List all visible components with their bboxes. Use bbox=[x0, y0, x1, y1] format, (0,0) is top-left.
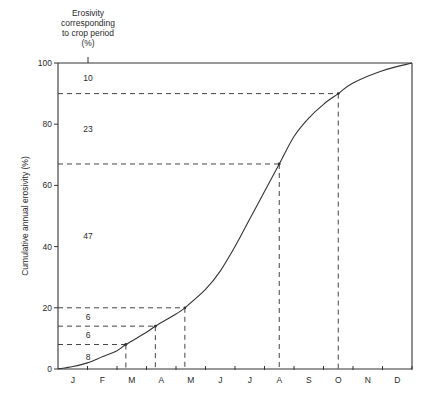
crop-period-value: 47 bbox=[83, 231, 93, 241]
crop-period-value: 6 bbox=[86, 330, 91, 340]
header-line: (%) bbox=[81, 38, 94, 48]
crop-period-header: Erosivitycorrespondingto crop period(%) bbox=[61, 8, 115, 63]
crop-period-value: 23 bbox=[83, 124, 93, 134]
erosivity-chart: Erosivitycorrespondingto crop period(%) … bbox=[0, 0, 433, 403]
x-tick-label: N bbox=[365, 375, 371, 385]
x-tick-label: D bbox=[394, 375, 400, 385]
x-tick-label: A bbox=[158, 375, 164, 385]
y-axis-ticks: 020406080100 bbox=[38, 58, 58, 374]
x-tick-label: J bbox=[71, 375, 75, 385]
y-tick-label: 60 bbox=[43, 180, 53, 190]
reference-point bbox=[337, 92, 340, 95]
x-tick-label: A bbox=[276, 375, 282, 385]
y-axis-label: Cumulative annual erosivity (%) bbox=[20, 156, 30, 276]
y-tick-label: 100 bbox=[38, 58, 52, 68]
header-line: corresponding bbox=[61, 18, 115, 28]
reference-point bbox=[183, 306, 186, 309]
reference-point bbox=[278, 163, 281, 166]
crop-period-values: 102347668 bbox=[83, 73, 93, 361]
x-tick-label: M bbox=[187, 375, 194, 385]
x-tick-label: O bbox=[335, 375, 342, 385]
y-tick-label: 20 bbox=[43, 303, 53, 313]
x-tick-label: J bbox=[218, 375, 222, 385]
y-tick-label: 80 bbox=[43, 119, 53, 129]
crop-period-value: 10 bbox=[83, 73, 93, 83]
y-axis-title: Cumulative annual erosivity (%) bbox=[20, 156, 30, 276]
crop-period-value: 8 bbox=[86, 352, 91, 362]
x-tick-label: J bbox=[248, 375, 252, 385]
crop-period-value: 6 bbox=[86, 312, 91, 322]
y-tick-label: 40 bbox=[43, 242, 53, 252]
x-tick-label: M bbox=[128, 375, 135, 385]
axes bbox=[58, 63, 412, 369]
reference-point bbox=[124, 343, 127, 346]
x-tick-label: S bbox=[306, 375, 312, 385]
x-tick-label: F bbox=[100, 375, 105, 385]
cumulative-erosivity-curve bbox=[58, 63, 412, 369]
header-line: to crop period bbox=[62, 28, 114, 38]
reference-dashed-lines bbox=[58, 94, 338, 369]
y-tick-label: 0 bbox=[47, 364, 52, 374]
reference-point bbox=[154, 325, 157, 328]
header-line: Erosivity bbox=[72, 8, 105, 18]
reference-points bbox=[124, 92, 339, 346]
